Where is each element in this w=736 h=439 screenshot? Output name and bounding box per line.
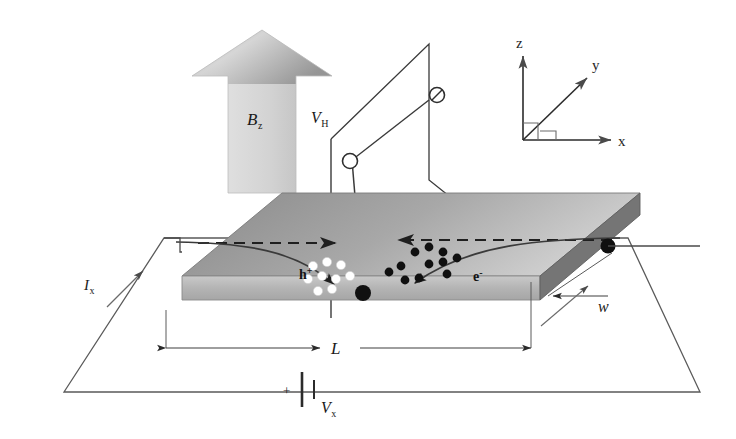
hole-dot bbox=[336, 260, 345, 269]
battery-symbol: + bbox=[283, 372, 314, 407]
hall-probe-diagonal-lead bbox=[352, 100, 429, 160]
axis-label-y: y bbox=[592, 57, 600, 73]
length-label: L bbox=[330, 339, 340, 358]
electron-dot bbox=[397, 262, 406, 271]
electron-dot bbox=[443, 270, 452, 279]
hole-dot bbox=[327, 284, 336, 293]
figure-canvas: Bz VH z y x bbox=[0, 0, 736, 439]
hole-dot bbox=[345, 271, 354, 280]
electron-dot bbox=[439, 248, 448, 257]
axis-right-angle-mark-2 bbox=[540, 131, 556, 140]
conducting-slab bbox=[182, 193, 640, 300]
axis-label-z: z bbox=[516, 35, 523, 51]
electron-dot bbox=[411, 248, 420, 257]
current-arrow bbox=[107, 271, 143, 307]
probe-dot-front[interactable] bbox=[355, 285, 371, 301]
hall-terminal-left[interactable] bbox=[343, 154, 358, 169]
current-label: Ix bbox=[83, 277, 95, 296]
lead-left bbox=[164, 238, 182, 252]
electron-dot bbox=[401, 276, 410, 285]
hole-dot bbox=[331, 274, 340, 283]
current-arrow-group bbox=[107, 271, 143, 307]
coordinate-axes: z y x bbox=[516, 35, 626, 149]
width-label: w bbox=[598, 298, 609, 315]
hole-dot bbox=[313, 286, 322, 295]
hall-effect-diagram: Bz VH z y x bbox=[0, 0, 736, 439]
hole-dot bbox=[317, 271, 326, 280]
hall-probe-plane-outline bbox=[331, 44, 474, 216]
electron-dot bbox=[425, 260, 434, 269]
battery-polarity-label: + bbox=[283, 383, 290, 398]
hole-dot bbox=[322, 257, 331, 266]
electron-dot bbox=[425, 243, 434, 252]
electron-dot bbox=[385, 268, 394, 277]
hall-voltage-label: VH bbox=[311, 109, 329, 129]
electron-dot bbox=[439, 258, 448, 267]
source-voltage-label: Vx bbox=[321, 399, 336, 419]
electron-dot bbox=[415, 274, 424, 283]
electron-dot bbox=[453, 254, 462, 263]
axis-label-x: x bbox=[618, 133, 626, 149]
